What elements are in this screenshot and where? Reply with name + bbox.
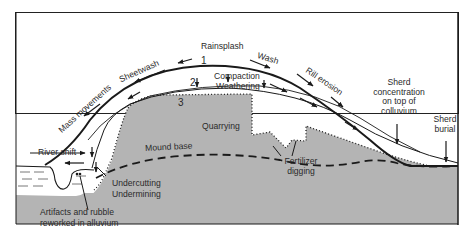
label-undercutting: Undercutting — [112, 179, 161, 188]
label-undermining: Undermining — [112, 190, 161, 199]
label-sherd-burial: Sherd burial — [430, 115, 460, 134]
surface-label-3: 3 — [178, 98, 184, 108]
label-quarrying: Quarrying — [202, 122, 240, 131]
label-artifacts-2: reworked in alluvium — [40, 219, 118, 228]
label-fertilizer-digging: Fertilizer digging — [273, 157, 329, 176]
sherd-burial-line-2: burial — [430, 125, 460, 135]
label-weathering: Weathering — [216, 82, 260, 91]
label-rainsplash: Rainsplash — [201, 42, 244, 51]
label-artifacts-1: Artifacts and rubble — [40, 208, 114, 217]
mound-erosion-diagram: 1 2 3 Rainsplash Wash Rill erosion Sheet… — [0, 0, 473, 248]
sherd-conc-line-4: colluvium — [368, 107, 430, 117]
surface-label-2: 2 — [190, 78, 196, 88]
label-sherd-concentration: Sherd concentration on top of colluvium — [368, 78, 430, 117]
label-river-shift: River shift — [38, 148, 76, 157]
surface-label-1: 1 — [201, 56, 207, 66]
label-digging: digging — [273, 167, 329, 177]
label-compaction: Compaction — [214, 72, 260, 81]
